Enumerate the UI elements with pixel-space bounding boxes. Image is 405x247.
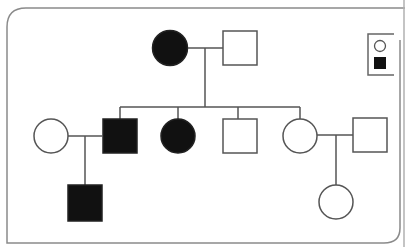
individual-II-6-unaffected-male	[353, 118, 387, 152]
legend-unaffected-female-icon	[375, 41, 386, 52]
legend-affected-male-icon	[374, 57, 386, 69]
individual-II-2-affected-male	[103, 119, 137, 153]
pedigree-diagram	[0, 0, 405, 247]
individual-I-2-unaffected-male	[223, 31, 257, 65]
individual-II-4-unaffected-male	[223, 119, 257, 153]
generation-3	[68, 185, 353, 221]
generation-2	[34, 118, 387, 185]
legend	[368, 34, 394, 75]
individual-I-1-affected-female	[153, 31, 188, 66]
individual-III-1-affected-male	[68, 185, 102, 221]
individual-II-5-unaffected-female	[283, 119, 317, 153]
individual-II-1-unaffected-female	[34, 119, 68, 153]
individual-III-2-unaffected-female	[319, 185, 353, 219]
individual-II-3-affected-female	[161, 119, 195, 153]
generation-1	[153, 31, 258, 108]
